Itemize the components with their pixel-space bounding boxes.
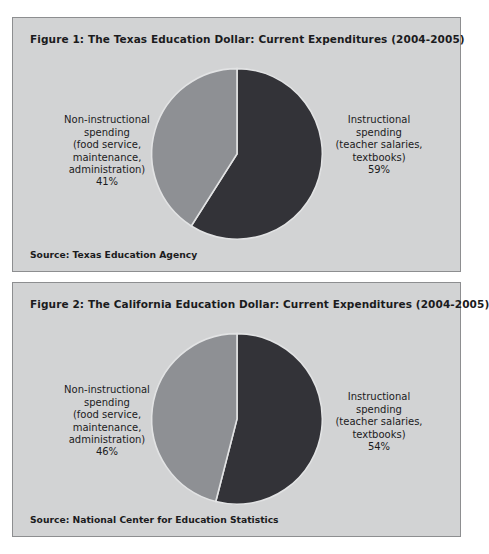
figure-1-instructional-label: Instructional spending (teacher salaries… — [306, 102, 452, 189]
figure-2-instructional-pct: 54% — [306, 441, 452, 453]
figure-1-instructional-pct: 59% — [306, 164, 452, 176]
figure-1-source: Source: Texas Education Agency — [30, 249, 197, 260]
figure-1-title: Figure 1: The Texas Education Dollar: Cu… — [30, 33, 465, 45]
figure-panel-2: Figure 2: The California Education Dolla… — [12, 282, 461, 537]
figure-2-source: Source: National Center for Education St… — [30, 514, 279, 525]
figure-panel-1: Figure 1: The Texas Education Dollar: Cu… — [12, 17, 461, 272]
figure-2-noninstructional-pct: 46% — [27, 446, 187, 458]
figure-2-noninstructional-text: Non-instructional spending (food service… — [64, 384, 150, 445]
figure-1-instructional-text: Instructional spending (teacher salaries… — [335, 114, 422, 162]
figure-1-noninstructional-label: Non-instructional spending (food service… — [27, 102, 187, 201]
pie-slice — [191, 69, 322, 240]
figure-2-instructional-label: Instructional spending (teacher salaries… — [306, 379, 452, 466]
figure-1-noninstructional-text: Non-instructional spending (food service… — [64, 114, 150, 175]
figure-1-noninstructional-pct: 41% — [27, 176, 187, 188]
figure-2-instructional-text: Instructional spending (teacher salaries… — [335, 391, 422, 439]
figure-2-title: Figure 2: The California Education Dolla… — [30, 298, 489, 310]
figure-2-noninstructional-label: Non-instructional spending (food service… — [27, 372, 187, 471]
